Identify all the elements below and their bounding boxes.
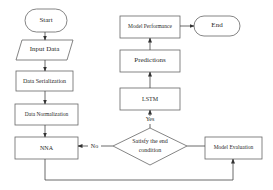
no-edge-label: No xyxy=(88,141,101,151)
input-data-label: Input Data xyxy=(16,40,73,60)
data-serialization-label: Data Serialization xyxy=(16,71,73,91)
model-evaluation-label: Model Evaluation xyxy=(205,137,262,159)
yes-edge-label: Yes xyxy=(140,115,160,124)
decision-label-line1: Satisfy the end xyxy=(118,137,182,146)
nna-label: NNA xyxy=(15,137,78,159)
edge-nna-model-evaluation xyxy=(45,159,233,180)
predictions-label: Predictions xyxy=(120,50,180,72)
lstm-label: LSTM xyxy=(120,88,180,110)
decision-label-line2: condition xyxy=(118,146,182,155)
start-label: Start xyxy=(25,9,67,32)
model-performance-label: Model Performance xyxy=(120,16,180,38)
end-label: End xyxy=(194,16,240,36)
data-normalization-label: Data Normalization xyxy=(15,104,78,125)
